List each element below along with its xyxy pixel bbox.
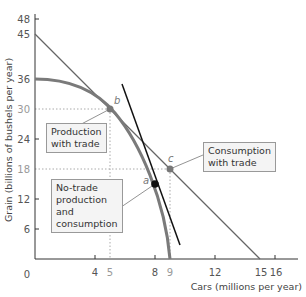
svg-text:18: 18	[17, 164, 30, 175]
point-a	[151, 180, 159, 188]
point-b-label: b	[114, 95, 120, 106]
svg-text:15: 15	[255, 267, 268, 278]
y-tick-labels: 48 45 36 30 24 18 12 6 0	[17, 14, 30, 280]
point-b	[107, 106, 114, 113]
tangent-line	[122, 84, 180, 245]
svg-text:48: 48	[17, 14, 30, 25]
svg-text:12: 12	[17, 194, 30, 205]
svg-text:45: 45	[17, 29, 30, 40]
svg-text:36: 36	[17, 74, 30, 85]
point-c	[167, 166, 174, 173]
svg-text:0: 0	[24, 269, 30, 280]
svg-text:9: 9	[167, 267, 173, 278]
svg-text:5: 5	[107, 267, 113, 278]
svg-text:4: 4	[92, 267, 98, 278]
callout-production-with-trade: Production with trade	[46, 123, 107, 153]
callout-consumption-with-trade: Consumption with trade	[203, 142, 276, 172]
svg-text:24: 24	[17, 134, 30, 145]
callout-no-trade: No-trade production and consumption	[51, 179, 123, 233]
svg-text:6: 6	[24, 224, 30, 235]
svg-text:30: 30	[17, 104, 30, 115]
x-tick-labels: 4 5 8 9 12 15 16	[92, 267, 283, 278]
point-c-label: c	[168, 153, 174, 164]
svg-text:16: 16	[270, 267, 283, 278]
point-a-label: a	[143, 175, 149, 186]
y-axis-title: Grain (billions of bushels per year)	[3, 58, 14, 222]
svg-text:12: 12	[209, 267, 222, 278]
x-axis-title: Cars (millions per year)	[191, 281, 302, 292]
svg-text:8: 8	[152, 267, 158, 278]
